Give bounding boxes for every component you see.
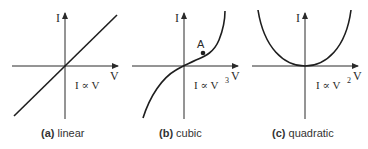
point-a-marker	[201, 51, 206, 56]
panel-a-x-label: V	[110, 69, 119, 83]
caption-c: (c) quadratic	[272, 127, 334, 139]
caption-c-tag: (c)	[272, 127, 285, 139]
panel-b-relation-exponent: 3	[225, 76, 229, 85]
panel-c-y-label: I	[296, 11, 300, 25]
panel-a-y-label: I	[56, 11, 60, 25]
caption-b-tag: (b)	[159, 127, 173, 139]
panel-b-y-label: I	[175, 11, 179, 25]
panel-b-cubic: A I V I ∝ V 3	[132, 11, 240, 119]
panel-b-x-label: V	[231, 69, 240, 83]
panel-a-relation: I ∝ V	[75, 79, 99, 91]
panel-c-relation-exponent: 2	[347, 76, 351, 85]
panel-c-x-label: V	[353, 69, 362, 83]
caption-b: (b) cubic	[159, 127, 202, 139]
caption-a-tag: (a)	[41, 127, 54, 139]
panel-b-relation: I ∝ V	[194, 79, 218, 91]
panel-a-linear: I V I ∝ V	[12, 11, 119, 119]
panel-c-quadratic: I V I ∝ V 2	[252, 10, 362, 119]
caption-c-text: quadratic	[289, 127, 334, 139]
caption-a: (a) linear	[41, 127, 84, 139]
caption-b-text: cubic	[176, 127, 202, 139]
caption-a-text: linear	[58, 127, 85, 139]
point-a-label: A	[197, 38, 205, 50]
panel-c-relation: I ∝ V	[316, 79, 340, 91]
